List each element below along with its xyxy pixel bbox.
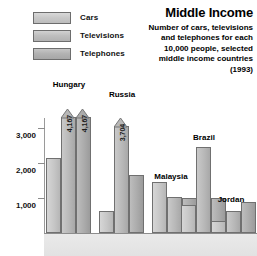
- plot-floor: [44, 233, 257, 256]
- chart-root: Cars Televisions Telephones Middle Incom…: [0, 0, 257, 256]
- plot-area: 3,000 2,000 1,000 4,167: [0, 0, 257, 256]
- y-axis-line: [44, 118, 45, 234]
- bar-jordan-cars[interactable]: [211, 221, 226, 233]
- bar-hungary-cars[interactable]: [46, 158, 61, 233]
- y-label-3000: 3,000: [16, 131, 36, 140]
- bar-malaysia-cars[interactable]: [152, 182, 167, 233]
- x-axis-baseline: [44, 233, 257, 234]
- bar-russia-telephones[interactable]: [129, 175, 144, 233]
- country-label-hungary: Hungary: [46, 81, 92, 89]
- y-label-2000-wrap: 2,000: [0, 159, 36, 177]
- country-label-brazil: Brazil: [177, 134, 231, 142]
- y-tick-2000: [38, 163, 45, 164]
- y-label-1000-wrap: 1,000: [0, 194, 36, 212]
- y-label-1000: 1,000: [16, 201, 36, 210]
- bar-hungary-televisions[interactable]: 4,167: [61, 117, 76, 233]
- bar-malaysia-televisions[interactable]: [167, 197, 182, 233]
- bar-brazil-televisions[interactable]: [196, 147, 211, 233]
- country-label-russia: Russia: [99, 91, 145, 99]
- bar-jordan-telephones[interactable]: [241, 202, 256, 233]
- value-label-hungary-televisions: 4,167: [65, 115, 72, 133]
- value-label-hungary-telephones: 4,167: [80, 115, 87, 133]
- bar-brazil-cars[interactable]: [181, 205, 196, 233]
- country-label-jordan: Jordan: [205, 196, 257, 204]
- bar-jordan-televisions[interactable]: [226, 211, 241, 233]
- bar-group-hungary: 4,167 4,167: [46, 103, 92, 233]
- bar-russia-cars[interactable]: [99, 211, 114, 233]
- y-tick-1000: [38, 198, 45, 199]
- value-label-russia-televisions: 3,704: [118, 124, 125, 142]
- bar-russia-televisions[interactable]: 3,704: [114, 126, 129, 233]
- y-label-2000: 2,000: [16, 166, 36, 175]
- bar-group-russia: 3,704: [99, 103, 145, 233]
- bar-hungary-telephones[interactable]: 4,167: [76, 117, 91, 233]
- y-label-3000-wrap: 3,000: [0, 124, 36, 142]
- y-tick-3000: [38, 128, 45, 129]
